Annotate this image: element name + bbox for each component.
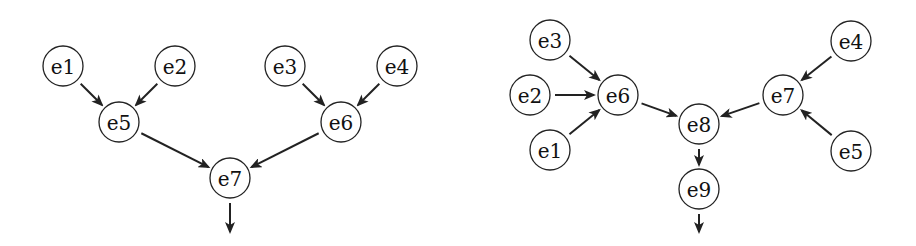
node-label: e9 xyxy=(687,178,712,202)
node-label: e7 xyxy=(771,84,796,108)
edge-arrow-e4-to-e7 xyxy=(802,57,832,81)
node-e1: e1 xyxy=(530,130,570,170)
edge-arrow-e4-to-e6 xyxy=(358,84,379,105)
diagram-canvas: e1e2e3e4e5e6e7 e3e2e1e6e8e9e7e4e5 xyxy=(0,0,916,246)
node-e6: e6 xyxy=(598,75,638,115)
node-e4: e4 xyxy=(831,21,871,61)
edge-arrow-e3-to-e6 xyxy=(303,84,324,105)
edge-arrow-e1-to-e5 xyxy=(81,84,102,105)
node-e9: e9 xyxy=(679,169,719,209)
node-label: e4 xyxy=(839,30,864,54)
node-e5: e5 xyxy=(831,131,871,171)
node-label: e1 xyxy=(538,139,563,163)
node-e3: e3 xyxy=(530,20,570,60)
node-e7: e7 xyxy=(763,75,803,115)
edge-arrow-e6-to-e8 xyxy=(642,103,677,115)
node-label: e5 xyxy=(107,111,132,135)
node-label: e1 xyxy=(51,55,76,79)
node-label: e8 xyxy=(687,113,712,137)
node-label: e5 xyxy=(839,140,864,164)
right-tree-diagram: e3e2e1e6e8e9e7e4e5 xyxy=(510,20,871,232)
node-e3: e3 xyxy=(265,46,305,86)
edge-arrow-e5-to-e7 xyxy=(802,110,832,135)
node-e6: e6 xyxy=(321,102,361,142)
edge-arrow-e6-to-e7 xyxy=(251,133,318,167)
left-tree-diagram: e1e2e3e4e5e6e7 xyxy=(43,46,417,232)
node-e2: e2 xyxy=(155,46,195,86)
edge-arrow-e2-to-e5 xyxy=(136,84,157,105)
node-label: e4 xyxy=(385,55,410,79)
node-label: e6 xyxy=(329,111,354,135)
node-label: e6 xyxy=(606,84,631,108)
node-e4: e4 xyxy=(377,46,417,86)
node-e7: e7 xyxy=(210,158,250,198)
node-label: e2 xyxy=(518,84,543,108)
edge-arrow-e3-to-e6 xyxy=(569,56,599,80)
node-e8: e8 xyxy=(679,104,719,144)
node-label: e3 xyxy=(538,29,563,53)
node-e2: e2 xyxy=(510,75,550,115)
edge-arrow-e7-to-e8 xyxy=(722,103,760,116)
node-e5: e5 xyxy=(99,102,139,142)
node-label: e7 xyxy=(218,167,243,191)
edge-arrow-e5-to-e7 xyxy=(141,133,208,167)
node-e1: e1 xyxy=(43,46,83,86)
edge-arrow-e1-to-e6 xyxy=(569,110,599,134)
node-label: e3 xyxy=(273,55,298,79)
node-label: e2 xyxy=(163,55,188,79)
